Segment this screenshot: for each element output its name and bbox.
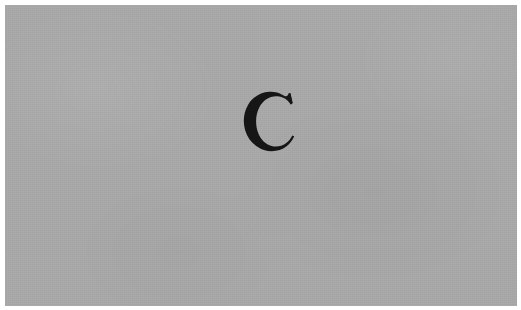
capital-letter-c-glyph [233,91,299,157]
scanned-paper-field [5,5,517,306]
scanned-page [0,0,521,310]
capital-letter-c [233,91,299,157]
